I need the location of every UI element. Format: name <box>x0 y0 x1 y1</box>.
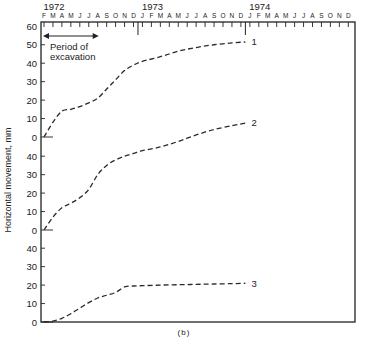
curve-3 <box>44 283 245 322</box>
month-label: S <box>319 12 324 19</box>
y-tick-label: 0 <box>32 132 37 143</box>
y-tick-label: 0 <box>32 317 37 328</box>
year-label: 1974 <box>249 1 270 12</box>
month-label: O <box>220 12 225 19</box>
y-tick-label: 30 <box>26 169 37 180</box>
y-tick-label: 10 <box>26 298 37 309</box>
month-label: F <box>42 12 46 19</box>
year-label: 1973 <box>142 1 163 12</box>
year-labels: 197219731974 <box>43 1 270 12</box>
month-label: A <box>310 12 315 19</box>
month-label: N <box>122 12 127 19</box>
month-label: D <box>239 12 244 19</box>
svg-text:excavation: excavation <box>50 51 95 62</box>
month-label: D <box>131 12 136 19</box>
month-label: M <box>50 12 55 19</box>
y-tick-label: 30 <box>26 76 37 87</box>
month-label: O <box>328 12 333 19</box>
month-label: F <box>149 12 153 19</box>
month-label: J <box>78 12 81 19</box>
figure-caption: (b) <box>0 328 368 337</box>
month-label: M <box>68 12 73 19</box>
y-tick-label: 10 <box>26 206 37 217</box>
month-label: A <box>60 12 65 19</box>
y-tick-label: 40 <box>26 151 37 162</box>
month-label: A <box>203 12 208 19</box>
curve-label: 2 <box>251 117 256 128</box>
month-label: A <box>96 12 101 19</box>
month-label: S <box>212 12 217 19</box>
y-axis-label: Horizontal movement, mm <box>3 127 13 232</box>
month-label: J <box>248 12 251 19</box>
month-label: N <box>230 12 235 19</box>
month-label: M <box>176 12 181 19</box>
y-tick-label: 20 <box>26 188 37 199</box>
month-label: J <box>87 12 90 19</box>
month-label: M <box>158 12 163 19</box>
y-tick-label: 40 <box>26 58 37 69</box>
month-label: A <box>275 12 280 19</box>
y-tick-label: 60 <box>26 21 37 32</box>
y-tick-label: 20 <box>26 280 37 291</box>
y-axis-tick-labels: 0102030405060010203040010203040 <box>26 21 37 328</box>
y-tick-label: 50 <box>26 39 37 50</box>
excavation-period-annotation: Period ofexcavation <box>43 33 99 62</box>
month-label: M <box>265 12 270 19</box>
tick-marks <box>41 22 348 322</box>
year-label: 1972 <box>43 1 64 12</box>
month-label: J <box>186 12 189 19</box>
month-label: A <box>167 12 172 19</box>
month-label: D <box>346 12 351 19</box>
month-label: J <box>293 12 296 19</box>
y-tick-label: 40 <box>26 243 37 254</box>
curve-label: 1 <box>251 36 256 47</box>
curve-label: 3 <box>251 278 256 289</box>
y-tick-label: 20 <box>26 95 37 106</box>
month-label: M <box>283 12 288 19</box>
y-tick-label: 0 <box>32 225 37 236</box>
horizontal-movement-chart: 197219731974 FMAMJJASONDJFMAMJJASONDJFMA… <box>0 0 368 342</box>
month-label: S <box>104 12 109 19</box>
month-label: J <box>302 12 305 19</box>
month-label: O <box>113 12 118 19</box>
y-tick-label: 30 <box>26 261 37 272</box>
plot-frame <box>41 22 355 322</box>
month-tick-labels: FMAMJJASONDJFMAMJJASONDJFMAMJJASOND <box>42 12 351 19</box>
month-label: N <box>337 12 342 19</box>
month-label: F <box>257 12 261 19</box>
curve-2 <box>44 123 245 230</box>
month-label: J <box>195 12 198 19</box>
month-label: J <box>141 12 144 19</box>
y-tick-label: 10 <box>26 113 37 124</box>
curves: 123 <box>44 36 257 322</box>
